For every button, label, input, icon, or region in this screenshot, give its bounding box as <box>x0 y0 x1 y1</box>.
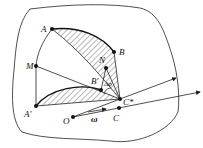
label-c: C <box>113 113 120 123</box>
label-cstar: C* <box>123 97 134 107</box>
label-a: A <box>40 24 47 34</box>
label-bprime: B' <box>91 76 99 86</box>
label-aprime: A' <box>23 109 32 119</box>
label-o: O <box>63 116 70 126</box>
point-m <box>34 64 38 68</box>
label-delta-phi: Δφ <box>103 80 112 88</box>
label-omega: ω <box>91 114 98 124</box>
point-a <box>50 27 54 31</box>
point-aprime <box>34 104 38 108</box>
point-n <box>104 66 108 70</box>
hatched-region-lower <box>36 87 120 106</box>
point-c <box>117 106 121 110</box>
arrow-cstar-out <box>120 78 176 99</box>
label-b: B <box>119 47 125 57</box>
label-n: N <box>98 55 106 65</box>
point-o <box>71 115 75 119</box>
point-cstar <box>118 97 122 101</box>
point-b <box>112 50 116 54</box>
rigid-body-diagram: A B M N B' A' C* C O Δφ ω <box>0 0 203 148</box>
label-m: M <box>25 61 34 71</box>
point-bprime <box>99 88 103 92</box>
